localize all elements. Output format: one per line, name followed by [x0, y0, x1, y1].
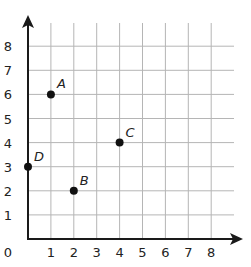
point-label: C: [126, 125, 136, 140]
point-marker-icon: [47, 90, 55, 98]
x-tick-label: 7: [184, 245, 192, 260]
point-label: A: [56, 76, 66, 91]
point-marker-icon: [70, 187, 78, 195]
x-tick-label: 1: [47, 245, 55, 260]
y-tick-label: 8: [4, 39, 12, 54]
y-tick-label: 4: [4, 136, 12, 151]
point-label: B: [80, 173, 89, 188]
y-tick-labels: 12345678: [4, 39, 12, 223]
y-tick-label: 6: [4, 87, 12, 102]
y-tick-label: 3: [4, 160, 12, 175]
coordinate-grid: 012345678 12345678 ABCD: [0, 0, 251, 267]
point-c: C: [116, 125, 136, 147]
x-tick-label: 6: [161, 245, 169, 260]
x-tick-label: 0: [4, 245, 12, 260]
y-tick-label: 1: [4, 208, 12, 223]
point-marker-icon: [24, 163, 32, 171]
x-tick-label: 2: [70, 245, 78, 260]
x-tick-labels: 012345678: [4, 245, 215, 260]
y-tick-label: 5: [4, 112, 12, 127]
point-label: D: [34, 149, 44, 164]
x-tick-label: 5: [138, 245, 146, 260]
y-tick-label: 2: [4, 184, 12, 199]
x-tick-label: 4: [115, 245, 123, 260]
point-a: A: [47, 76, 66, 98]
y-tick-label: 7: [4, 63, 12, 78]
point-b: B: [70, 173, 89, 195]
x-tick-label: 8: [207, 245, 215, 260]
x-tick-label: 3: [93, 245, 101, 260]
point-marker-icon: [116, 139, 124, 147]
